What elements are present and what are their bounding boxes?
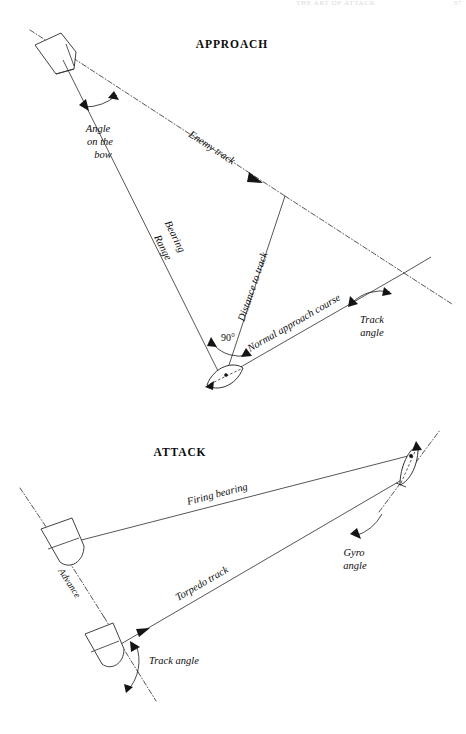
firing-bearing-label: Firing bearing [185, 481, 249, 507]
gyro-angle-arrowhead [350, 528, 361, 539]
enemy-track-arrowhead [247, 172, 263, 183]
normal-approach-course-label: Normal approach course [245, 291, 343, 354]
own-submarine-conning-tower [224, 373, 228, 377]
attack-own-submarine [396, 441, 422, 487]
attack-target-ship-lower [85, 623, 124, 667]
angle-on-bow-arrow-right [108, 91, 119, 100]
advance-label: Advance [56, 566, 83, 600]
diagram-figure: APPROACH Angle on the bow Enemy [0, 0, 466, 734]
angle-on-bow-arrow-left [79, 99, 89, 111]
attack-title: ATTACK [154, 446, 207, 458]
enemy-track-line-extension [404, 273, 452, 304]
attack-target-ship-upper [41, 518, 84, 565]
angle-on-bow-label-line3: bow [94, 149, 112, 160]
target-ship-upper-hull [41, 518, 84, 565]
track-angle-label-line1: Track [360, 314, 384, 325]
gyro-angle-label-line1: Gyro [343, 547, 364, 558]
gyro-angle-arc [355, 514, 382, 536]
track-angle-label-line2: angle [360, 327, 384, 338]
advance-line-extension [138, 672, 156, 701]
approach-own-submarine [205, 365, 243, 390]
angle-on-bow-label-line2: on the [87, 136, 113, 147]
approach-diagram: APPROACH Angle on the bow Enemy [30, 30, 452, 390]
gyro-angle-label-line2: angle [343, 560, 367, 571]
enemy-track-line-lower [285, 196, 404, 273]
right-angle-label: 90° [221, 332, 235, 343]
page-canvas: 37 THE ART OF ATTACK APPROACH [0, 0, 466, 734]
attack-submarine-bow-marker [412, 441, 422, 451]
normal-approach-course-extension [404, 257, 431, 273]
distance-to-track-label: Distance to track [235, 250, 269, 323]
torpedo-track-arrowhead [136, 628, 150, 637]
approach-enemy-ship [35, 33, 76, 74]
attack-diagram: ATTACK Firing bearing Torpedo track [20, 430, 440, 701]
attack-track-angle-label: Track angle [149, 655, 199, 666]
target-ship-lower-hull [85, 623, 124, 667]
approach-title: APPROACH [196, 38, 268, 50]
track-angle-arrow-right [382, 287, 392, 296]
attack-track-angle-arc [128, 645, 139, 690]
track-angle-arrow-left [348, 296, 358, 307]
angle-on-bow-label-line1: Angle [85, 123, 111, 134]
attack-submarine-conning-tower [409, 454, 413, 458]
right-angle-arrow-left [207, 337, 217, 347]
enemy-track-label: Enemy track [186, 128, 237, 167]
attack-track-angle-arrow-top [130, 641, 140, 652]
